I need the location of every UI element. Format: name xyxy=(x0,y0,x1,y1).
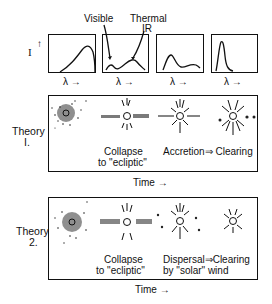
visible-arrow xyxy=(104,25,110,58)
theory2-collapse-label: Collapse xyxy=(104,254,143,265)
spectrum-curve-2 xyxy=(106,60,145,70)
theory1-collapse-label: Collapse xyxy=(104,146,143,157)
spectrum-curve-1 xyxy=(60,46,95,72)
spectrum-curve-4 xyxy=(216,42,233,71)
theory1-time-axis: Time → xyxy=(133,177,168,188)
theory2-dispersal-clearing-label: Dispersal⇒Clearing xyxy=(163,254,250,265)
theory1-number: I. xyxy=(24,137,30,148)
theory2-solar-wind-label: by "solar" wind xyxy=(163,265,228,276)
theory1-ecliptic-label: to "ecliptic" xyxy=(98,157,147,168)
theory2-number: 2. xyxy=(29,237,38,248)
theory2-time-axis: Time → xyxy=(135,284,170,295)
theory1-box xyxy=(48,95,258,172)
theory2-ecliptic-label: to "ecliptic" xyxy=(96,265,145,276)
ir-arrow xyxy=(133,31,144,58)
spectrum-curve-3 xyxy=(163,55,200,70)
theory1-accretion-clearing-label: Accretion⇒ Clearing xyxy=(163,146,253,157)
